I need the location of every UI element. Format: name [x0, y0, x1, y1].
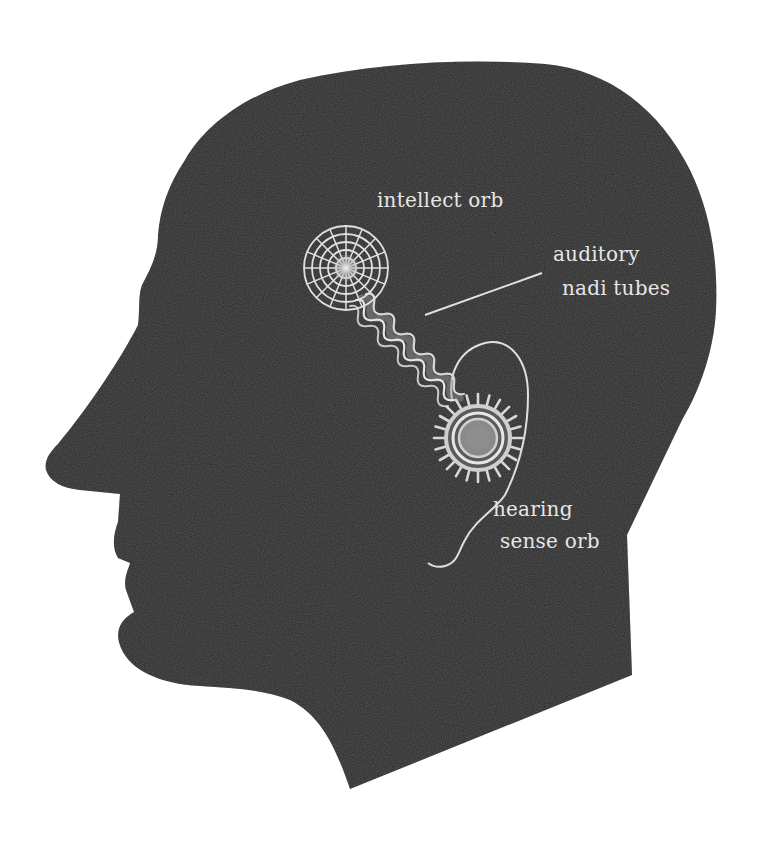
- label-hearing: hearing: [493, 499, 573, 519]
- label-nadi-tubes: nadi tubes: [562, 278, 670, 298]
- intellect-orb: [304, 226, 388, 310]
- head-diagram: [0, 0, 759, 848]
- label-sense-orb: sense orb: [500, 531, 600, 551]
- hearing-sense-orb: [434, 394, 522, 482]
- head-silhouette: [46, 61, 717, 789]
- label-intellect-orb: intellect orb: [377, 190, 503, 210]
- label-auditory: auditory: [553, 244, 640, 264]
- diagram-canvas: intellect orb auditory nadi tubes hearin…: [0, 0, 759, 848]
